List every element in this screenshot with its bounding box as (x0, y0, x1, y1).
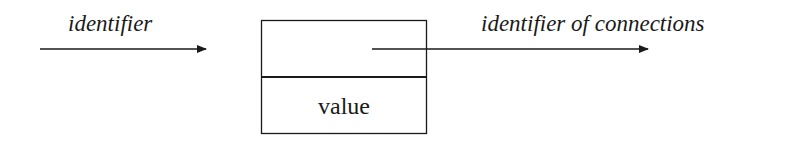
output-identifier-label: identifier of connections (481, 12, 705, 35)
input-identifier-label: identifier (68, 12, 152, 35)
value-cell-label: value (261, 94, 427, 118)
